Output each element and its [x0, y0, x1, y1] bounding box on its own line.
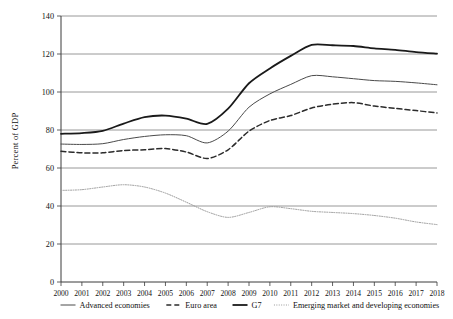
axis-lines-group	[61, 16, 437, 282]
series-line-3	[61, 185, 437, 225]
y-tick-label: 60	[46, 164, 54, 173]
legend-label-1: Euro area	[185, 301, 217, 310]
gridlines-group	[61, 16, 437, 244]
x-tick-label: 2011	[283, 289, 298, 298]
y-tick-label: 40	[46, 202, 54, 211]
series-line-2	[61, 44, 437, 134]
x-tick-label: 2013	[325, 289, 340, 298]
series-line-1	[61, 103, 437, 159]
x-tick-label: 2009	[241, 289, 256, 298]
legend-label-3: Emerging market and developing economies	[293, 301, 439, 310]
x-tick-label: 2002	[95, 289, 110, 298]
x-tick-label: 2007	[200, 289, 215, 298]
x-tick-label: 2000	[53, 289, 68, 298]
chart-figure: Percent of GDP 020406080100120140 200020…	[0, 0, 453, 319]
x-tick-labels-group: 2000200120022003200420052006200720082009…	[53, 289, 444, 298]
y-tick-label: 120	[42, 50, 54, 59]
x-tick-label: 2008	[221, 289, 236, 298]
y-tick-label: 100	[42, 88, 54, 97]
y-tick-labels-group: 020406080100120140	[42, 12, 54, 287]
series-line-0	[61, 75, 437, 144]
y-tick-label: 140	[42, 12, 54, 21]
x-tick-label: 2005	[158, 289, 173, 298]
legend-label-0: Advanced economies	[80, 301, 150, 310]
y-tick-label: 20	[46, 240, 54, 249]
x-tickmarks-group	[61, 282, 437, 286]
y-tickmarks-group	[57, 16, 61, 282]
plot-area: 020406080100120140 200020012002200320042…	[0, 0, 453, 319]
x-tick-label: 2003	[116, 289, 131, 298]
legend-group: Advanced economiesEuro areaG7Emerging ma…	[61, 301, 440, 310]
x-tick-label: 2018	[429, 289, 444, 298]
line-chart-svg: 020406080100120140 200020012002200320042…	[0, 0, 453, 319]
x-tick-label: 2001	[74, 289, 89, 298]
y-tick-label: 80	[46, 126, 54, 135]
series-lines-group	[61, 44, 437, 224]
x-tick-label: 2014	[346, 289, 361, 298]
x-tick-label: 2015	[367, 289, 382, 298]
x-tick-label: 2006	[179, 289, 194, 298]
x-tick-label: 2012	[304, 289, 319, 298]
legend-label-2: G7	[252, 301, 262, 310]
x-tick-label: 2010	[262, 289, 277, 298]
x-tick-label: 2004	[137, 289, 152, 298]
y-tick-label: 0	[50, 278, 54, 287]
x-tick-label: 2017	[409, 289, 424, 298]
x-tick-label: 2016	[388, 289, 403, 298]
